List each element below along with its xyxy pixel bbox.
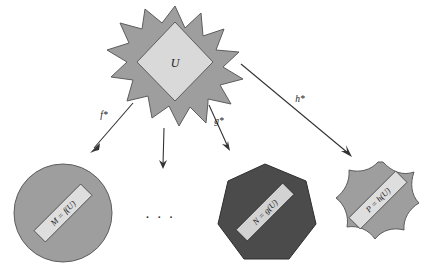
source-star-group: U	[107, 6, 243, 126]
arrow-f-group: f*	[90, 103, 133, 153]
arrow-g-group: g*	[209, 105, 230, 151]
arrow-unlabeled-group	[159, 128, 167, 169]
arrow-h-line	[241, 64, 348, 153]
arrow-h-label: h*	[295, 94, 305, 104]
arrow-h-head	[341, 145, 352, 157]
arrow-f-label: f*	[100, 110, 108, 120]
target-circle-group: M = f(U)	[14, 164, 112, 262]
ellipsis-between-shapes: · · ·	[145, 209, 175, 225]
arrow-f-head-fill	[90, 143, 100, 153]
arrow-h-group: h*	[241, 64, 352, 157]
arrow-unlabeled-line	[163, 128, 164, 165]
target-blobstar-group: P = h(U)	[336, 162, 419, 239]
target-heptagon-group: N = g(U)	[218, 164, 316, 259]
source-label-u: U	[171, 56, 181, 70]
arrow-g-label: g*	[214, 116, 224, 126]
arrow-g-line	[209, 105, 228, 147]
diagram-canvas: U f* g* h*	[0, 0, 438, 269]
